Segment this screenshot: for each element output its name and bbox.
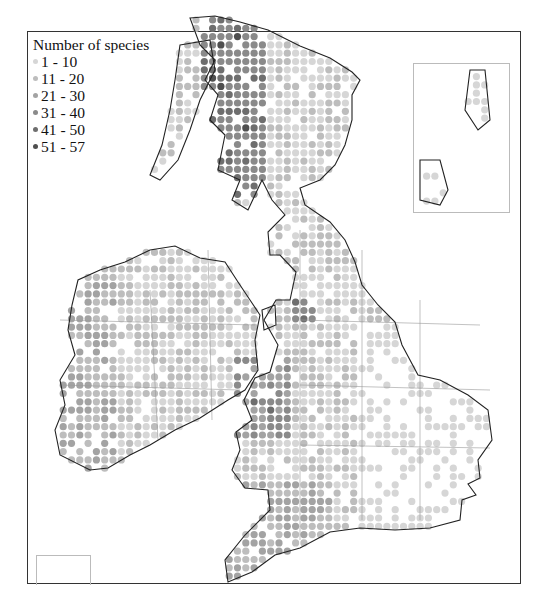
legend-dot-icon: [33, 59, 38, 64]
legend-dot-icon: [33, 144, 38, 149]
legend-dot-icon: [33, 76, 38, 81]
legend-dot-icon: [33, 93, 38, 98]
legend-title: Number of species: [33, 36, 149, 53]
legend-item-2: 11 - 20: [33, 70, 149, 87]
legend-item-5: 41 - 50: [33, 121, 149, 138]
legend-dot-icon: [33, 127, 38, 132]
legend-item-4: 31 - 40: [33, 104, 149, 121]
legend: Number of species 1 - 10 11 - 20 21 - 30…: [33, 36, 149, 155]
legend-dot-icon: [33, 110, 38, 115]
legend-item-6: 51 - 57: [33, 138, 149, 155]
legend-item-1: 1 - 10: [33, 53, 149, 70]
legend-item-3: 21 - 30: [33, 87, 149, 104]
